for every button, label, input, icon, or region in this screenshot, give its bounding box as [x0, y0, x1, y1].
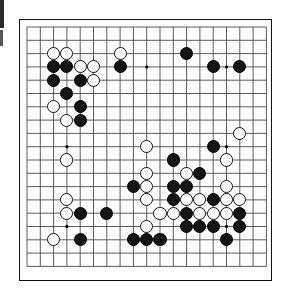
- white-stone[interactable]: [114, 47, 127, 60]
- white-stone[interactable]: [207, 207, 220, 220]
- white-stone[interactable]: [87, 74, 100, 87]
- left-edge-sliver-secondary: [0, 30, 3, 46]
- screenshot-root: [0, 0, 291, 307]
- left-edge-sliver: [0, 0, 4, 28]
- black-stone[interactable]: [207, 140, 220, 153]
- black-stone[interactable]: [74, 207, 87, 220]
- black-stone[interactable]: [180, 207, 193, 220]
- black-stone[interactable]: [74, 74, 87, 87]
- black-stone[interactable]: [74, 114, 87, 127]
- black-stone[interactable]: [47, 74, 60, 87]
- go-board[interactable]: [19, 19, 272, 281]
- white-stone[interactable]: [220, 153, 233, 166]
- black-stone[interactable]: [167, 153, 180, 166]
- white-stone[interactable]: [60, 153, 73, 166]
- white-stone[interactable]: [180, 167, 193, 180]
- black-stone[interactable]: [153, 233, 166, 246]
- black-stone[interactable]: [207, 220, 220, 233]
- black-stone[interactable]: [167, 180, 180, 193]
- white-stone[interactable]: [167, 207, 180, 220]
- white-stone[interactable]: [153, 207, 166, 220]
- white-stone[interactable]: [220, 207, 233, 220]
